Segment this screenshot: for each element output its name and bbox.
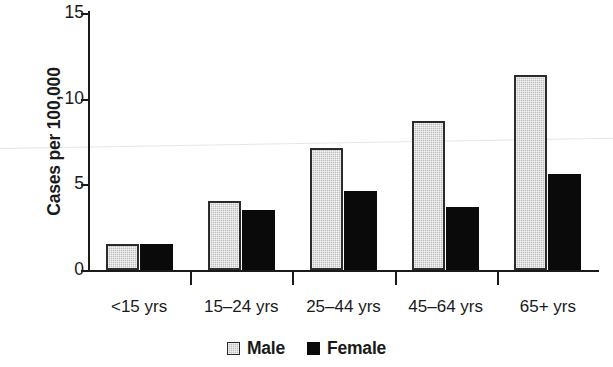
legend-label-female: Female <box>327 338 386 359</box>
legend-swatch-male-icon <box>227 342 240 355</box>
x-axis-label-4: 65+ yrs <box>520 297 576 317</box>
y-tick-label: 0 <box>74 259 84 279</box>
x-tick-mark-1 <box>190 272 192 285</box>
bar-male-0 <box>106 244 139 270</box>
x-axis-label-1: 15–24 yrs <box>204 297 279 317</box>
bar-male-4 <box>514 75 547 270</box>
y-axis-title: Cases per 100,000 <box>44 27 65 257</box>
x-tick-mark-2 <box>292 272 294 285</box>
bar-chart-figure: Cases per 100,000 051015 <15 yrs15–24 yr… <box>0 0 613 367</box>
bar-female-0 <box>140 244 173 270</box>
bar-female-3 <box>446 207 479 270</box>
legend-swatch-female-icon <box>307 342 320 355</box>
bar-female-4 <box>548 174 581 270</box>
bar-female-2 <box>344 191 377 270</box>
x-tick-mark-3 <box>395 272 397 285</box>
legend-item-male: Male <box>227 338 285 359</box>
bar-male-1 <box>208 201 241 270</box>
y-tick-label: 15 <box>65 2 84 22</box>
x-tick-mark-4 <box>497 272 499 285</box>
legend-item-female: Female <box>307 338 386 359</box>
bar-female-1 <box>242 210 275 270</box>
x-axis-label-0: <15 yrs <box>111 297 167 317</box>
bar-male-3 <box>412 121 445 270</box>
y-tick-label: 5 <box>74 173 84 193</box>
bar-male-2 <box>310 148 343 270</box>
x-axis-label-2: 25–44 yrs <box>306 297 381 317</box>
legend-label-male: Male <box>247 338 285 359</box>
x-axis-line <box>88 270 599 272</box>
x-axis-label-3: 45–64 yrs <box>408 297 483 317</box>
chart-legend: Male Female <box>0 338 613 359</box>
plot-area <box>88 13 599 270</box>
y-tick-label: 10 <box>65 88 84 108</box>
